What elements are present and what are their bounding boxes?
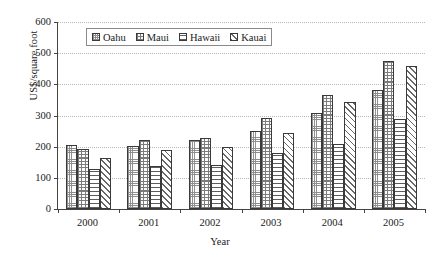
bar-oahu-2003[interactable] xyxy=(250,131,261,209)
bar-group xyxy=(119,22,180,209)
bar-hawaii-2000[interactable] xyxy=(89,169,100,209)
bar-oahu-2000[interactable] xyxy=(66,145,77,209)
legend-swatch-icon xyxy=(92,33,100,41)
legend-swatch-icon xyxy=(230,33,238,41)
x-axis-tick-label: 2002 xyxy=(180,217,240,228)
bar-hawaii-2002[interactable] xyxy=(211,165,222,209)
y-axis-tick-label: 0 xyxy=(23,204,51,214)
x-axis-tick-mark xyxy=(303,209,304,213)
x-axis-tick-label: 2004 xyxy=(302,217,362,228)
bar-oahu-2005[interactable] xyxy=(372,90,383,209)
bar-maui-2005[interactable] xyxy=(383,61,394,209)
x-axis-tick-mark xyxy=(242,209,243,213)
x-axis-tick-label: 2000 xyxy=(58,217,118,228)
x-axis-tick-label: 2001 xyxy=(119,217,179,228)
bar-kauai-2001[interactable] xyxy=(161,150,172,209)
bar-kauai-2002[interactable] xyxy=(222,147,233,209)
bar-maui-2001[interactable] xyxy=(139,140,150,210)
x-axis-tick-mark xyxy=(58,209,59,213)
y-axis-tick-label: 400 xyxy=(23,79,51,89)
bar-kauai-2004[interactable] xyxy=(344,102,355,209)
legend-item-label: Hawaii xyxy=(190,32,220,43)
x-axis-tick-mark xyxy=(119,209,120,213)
bar-group xyxy=(58,22,119,209)
bar-hawaii-2005[interactable] xyxy=(394,119,405,209)
bar-maui-2003[interactable] xyxy=(261,118,272,209)
bar-chart: US$/square foot 6005004003002001000 2000… xyxy=(0,0,440,260)
bar-maui-2004[interactable] xyxy=(322,95,333,209)
y-axis-tick-label: 600 xyxy=(23,17,51,27)
y-axis-tick-label: 300 xyxy=(23,111,51,121)
bar-oahu-2001[interactable] xyxy=(127,146,138,209)
bar-group xyxy=(364,22,425,209)
bar-maui-2002[interactable] xyxy=(200,138,211,209)
legend-item-hawaii[interactable]: Hawaii xyxy=(179,32,220,43)
plot-area xyxy=(57,22,425,210)
x-axis-tick-mark xyxy=(180,209,181,213)
y-axis-tick-label: 100 xyxy=(23,173,51,183)
y-axis-tick-label: 500 xyxy=(23,48,51,58)
y-axis-tick-label: 200 xyxy=(23,142,51,152)
legend-item-maui[interactable]: Maui xyxy=(136,32,169,43)
bar-hawaii-2003[interactable] xyxy=(272,153,283,209)
legend: OahuMauiHawaiiKauai xyxy=(86,28,272,46)
x-axis-tick-label: 2005 xyxy=(363,217,423,228)
legend-item-label: Kauai xyxy=(241,32,266,43)
legend-swatch-icon xyxy=(136,33,144,41)
bar-group xyxy=(242,22,303,209)
bar-hawaii-2004[interactable] xyxy=(333,144,344,209)
legend-swatch-icon xyxy=(179,33,187,41)
bar-oahu-2004[interactable] xyxy=(311,113,322,209)
bar-kauai-2000[interactable] xyxy=(100,158,111,209)
legend-item-label: Maui xyxy=(147,32,169,43)
legend-item-kauai[interactable]: Kauai xyxy=(230,32,266,43)
legend-item-oahu[interactable]: Oahu xyxy=(92,32,126,43)
bar-group xyxy=(180,22,241,209)
legend-item-label: Oahu xyxy=(103,32,126,43)
bar-hawaii-2001[interactable] xyxy=(150,166,161,209)
bar-group xyxy=(303,22,364,209)
bar-kauai-2003[interactable] xyxy=(283,133,294,209)
x-axis-tick-mark xyxy=(425,209,426,213)
x-axis-tick-mark xyxy=(364,209,365,213)
x-axis-title: Year xyxy=(0,236,440,247)
bar-kauai-2005[interactable] xyxy=(406,66,417,209)
x-axis-tick-label: 2003 xyxy=(241,217,301,228)
bar-maui-2000[interactable] xyxy=(77,149,88,209)
bar-oahu-2002[interactable] xyxy=(189,140,200,209)
